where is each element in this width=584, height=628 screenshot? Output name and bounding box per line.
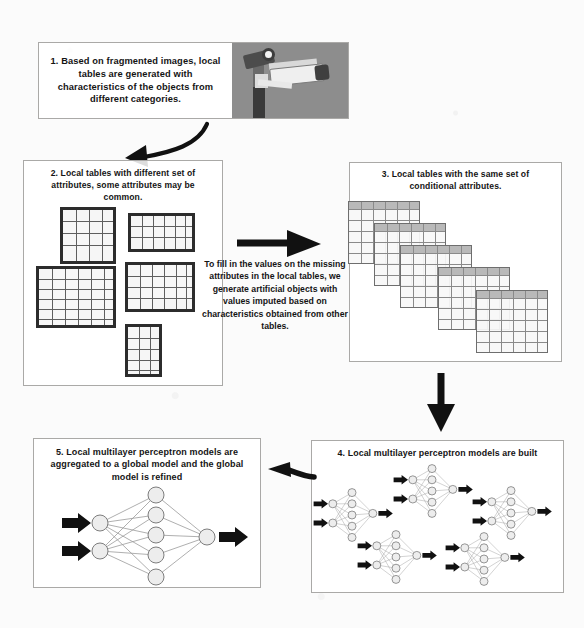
conditional-table-5 [476, 290, 548, 353]
camera-pole [253, 87, 265, 118]
diagram-canvas: 1. Based on fragmented images, local tab… [0, 0, 584, 628]
local-table-b [128, 213, 195, 252]
step-4-box: 4. Local multilayer perceptron models ar… [311, 440, 564, 593]
step-5-box: 5. Local multilayer perceptron models ar… [33, 438, 261, 588]
step-1-caption: 1. Based on fragmented images, local tab… [45, 55, 226, 105]
local-table-c [36, 266, 116, 328]
step-3-box: 3. Local tables with the same set of con… [349, 162, 562, 362]
local-table-d [125, 262, 195, 312]
step-5-caption: 5. Local multilayer perceptron models ar… [34, 439, 260, 483]
camera-lens-front [314, 64, 329, 80]
camera-lens-rear [262, 48, 275, 61]
local-table-e [125, 324, 162, 377]
surveillance-camera-photo [232, 43, 348, 118]
step-1-box: 1. Based on fragmented images, local tab… [38, 42, 349, 119]
imputation-note: To fill in the values on the missing att… [200, 258, 350, 332]
arrow-step4-to-step5 [266, 461, 318, 487]
step-3-caption: 3. Local tables with the same set of con… [350, 163, 561, 193]
step-4-caption: 4. Local multilayer perceptron models ar… [312, 441, 563, 459]
step-2-caption: 2. Local tables with different set of at… [24, 161, 222, 203]
local-table-a [60, 207, 116, 264]
arrow-step3-to-step4 [424, 372, 460, 434]
local-mlp-network-group [312, 465, 565, 592]
arrow-step2-to-step3 [235, 228, 331, 258]
step-1-caption-wrap: 1. Based on fragmented images, local tab… [39, 43, 232, 118]
step-2-box: 2. Local tables with different set of at… [23, 160, 223, 386]
global-mlp-network [60, 489, 250, 587]
